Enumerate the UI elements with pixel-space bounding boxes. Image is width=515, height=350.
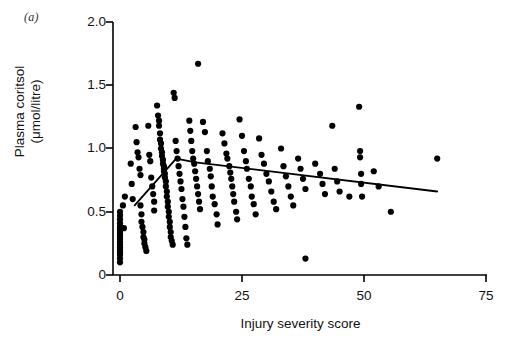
data-point	[117, 259, 123, 265]
data-point	[231, 199, 237, 205]
data-point	[212, 201, 218, 207]
data-point	[156, 123, 162, 129]
data-point	[138, 211, 144, 217]
data-point	[176, 171, 182, 177]
data-point	[210, 193, 216, 199]
data-point	[214, 211, 220, 217]
data-point	[268, 188, 274, 194]
data-point	[359, 193, 365, 199]
data-point	[230, 191, 236, 197]
data-point	[243, 158, 249, 164]
data-point	[261, 161, 267, 167]
data-point	[234, 216, 240, 222]
data-point	[224, 156, 230, 162]
data-point	[129, 181, 135, 187]
data-point	[187, 128, 193, 134]
data-point	[135, 154, 141, 160]
data-point	[221, 140, 227, 146]
data-point	[180, 204, 186, 210]
data-point	[358, 171, 364, 177]
data-point	[215, 221, 221, 227]
data-point	[175, 163, 181, 169]
scatter-plot-canvas	[0, 0, 515, 350]
data-point	[322, 191, 328, 197]
data-point	[151, 207, 157, 213]
data-point	[121, 225, 127, 231]
data-point	[182, 224, 188, 230]
data-point	[189, 148, 195, 154]
data-point	[137, 172, 143, 178]
data-point	[195, 61, 201, 67]
data-point	[188, 138, 194, 144]
data-point	[388, 209, 394, 215]
data-point	[434, 156, 440, 162]
data-point	[197, 206, 203, 212]
data-point	[208, 173, 214, 179]
data-point	[258, 152, 264, 158]
data-point	[288, 193, 294, 199]
data-point	[280, 163, 286, 169]
data-point	[228, 176, 234, 182]
data-point	[297, 166, 303, 172]
data-point	[136, 166, 142, 172]
data-point	[357, 154, 363, 160]
data-point	[253, 211, 259, 217]
data-point	[229, 183, 235, 189]
data-point	[317, 171, 323, 177]
data-point	[194, 183, 200, 189]
data-point	[172, 95, 178, 101]
data-point	[302, 255, 308, 261]
data-point	[137, 202, 143, 208]
data-point	[271, 199, 277, 205]
data-point	[183, 235, 189, 241]
data-point	[236, 116, 242, 122]
data-point	[186, 118, 192, 124]
data-point	[200, 119, 206, 125]
data-point	[302, 186, 308, 192]
data-point	[128, 161, 134, 167]
data-point	[130, 196, 136, 202]
data-point	[319, 181, 325, 187]
data-point	[337, 188, 343, 194]
data-point	[148, 174, 154, 180]
data-point	[273, 206, 279, 212]
data-point	[329, 123, 335, 129]
data-point	[295, 156, 301, 162]
data-point	[202, 129, 208, 135]
data-point	[278, 145, 284, 151]
data-point	[133, 124, 139, 130]
data-point	[241, 148, 247, 154]
data-point	[246, 176, 252, 182]
data-point	[193, 176, 199, 182]
data-point	[157, 130, 163, 136]
data-point	[239, 133, 245, 139]
data-point	[357, 148, 363, 154]
data-point	[178, 186, 184, 192]
data-point	[248, 183, 254, 189]
data-point	[209, 183, 215, 189]
data-point	[151, 199, 157, 205]
data-point	[227, 169, 233, 175]
data-point	[371, 168, 377, 174]
data-point	[192, 168, 198, 174]
data-point	[251, 201, 257, 207]
data-point	[356, 104, 362, 110]
data-point	[312, 161, 318, 167]
data-point	[170, 242, 176, 248]
data-point	[266, 178, 272, 184]
data-point	[249, 193, 255, 199]
data-point	[184, 242, 190, 248]
data-point	[174, 148, 180, 154]
data-point	[233, 209, 239, 215]
scatter-data-points	[117, 61, 440, 266]
data-point	[346, 193, 352, 199]
data-point	[195, 191, 201, 197]
data-point	[150, 191, 156, 197]
data-point	[147, 158, 153, 164]
figure-panel: (a) Plasma coritsol (μmol/litre) Injury …	[0, 0, 515, 350]
data-point	[145, 123, 151, 129]
data-point	[207, 166, 213, 172]
data-point	[122, 193, 128, 199]
data-point	[179, 196, 185, 202]
data-point	[181, 214, 187, 220]
